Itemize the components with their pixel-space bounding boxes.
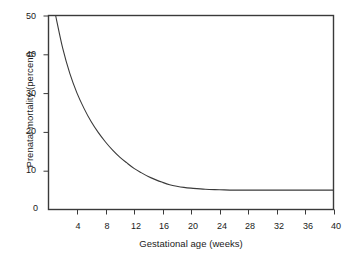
x-tick-label-16: 16 (154, 221, 174, 231)
chart-figure: Prenatal mortality (percent) Gestational… (0, 0, 351, 259)
y-tick-label-20: 20 (14, 126, 36, 136)
x-tick-label-32: 32 (269, 221, 289, 231)
x-tick-label-12: 12 (126, 221, 146, 231)
origin-label: 0 (33, 203, 38, 213)
x-tick-label-28: 28 (240, 221, 260, 231)
x-tick-label-40: 40 (326, 221, 346, 231)
y-tick-label-50: 50 (14, 11, 36, 21)
y-tick-label-10: 10 (14, 165, 36, 175)
x-tick-label-24: 24 (212, 221, 232, 231)
y-axis-title: Prenatal mortality (percent) (24, 15, 35, 205)
y-tick-label-40: 40 (14, 49, 36, 59)
curve-group (56, 16, 334, 191)
x-tick-label-36: 36 (298, 221, 318, 231)
x-tick-label-20: 20 (183, 221, 203, 231)
x-tick-label-8: 8 (97, 221, 117, 231)
plot-frame (49, 16, 334, 210)
x-axis-title: Gestational age (weeks) (48, 238, 334, 249)
y-tick-label-30: 30 (14, 88, 36, 98)
mortality-curve-line (56, 16, 334, 191)
x-tick-label-4: 4 (68, 221, 88, 231)
